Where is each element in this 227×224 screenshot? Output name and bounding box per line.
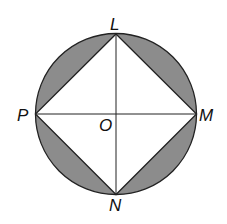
label-p: P (17, 106, 29, 125)
label-n: N (109, 196, 122, 215)
label-m: M (199, 106, 214, 125)
label-l: L (110, 15, 119, 34)
geometry-diagram: L M N P O (0, 0, 227, 224)
label-o: O (99, 116, 112, 135)
